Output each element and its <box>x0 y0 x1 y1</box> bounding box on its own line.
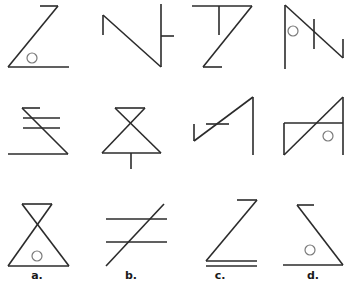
stroke-line <box>22 108 68 154</box>
puzzle-board <box>0 0 353 284</box>
stroke-line <box>8 6 58 67</box>
figure-box-slash <box>284 97 343 155</box>
stroke-line <box>297 205 343 265</box>
option-d-sigma-circle[interactable] <box>283 205 343 265</box>
figure-flag-n <box>285 5 343 69</box>
stroke-line <box>106 204 164 266</box>
option-a-hourglass-circle[interactable] <box>8 204 69 266</box>
circle-icon <box>323 131 333 141</box>
figure-sigma-bars <box>8 108 68 154</box>
option-label-a[interactable]: a. <box>31 270 43 281</box>
figure-slash-lightning <box>194 97 253 155</box>
stroke-line <box>103 15 161 67</box>
stroke-line <box>206 200 257 261</box>
circle-icon <box>32 251 42 261</box>
figure-hourglass-stem <box>102 108 161 169</box>
circle-icon <box>288 26 298 36</box>
circle-icon <box>305 245 315 255</box>
option-b-slash-bars[interactable] <box>106 204 167 266</box>
stroke-line <box>203 6 252 67</box>
stroke-line <box>284 97 343 155</box>
figure-z-circle <box>8 6 69 67</box>
stroke-line <box>194 97 253 141</box>
option-label-d[interactable]: d. <box>307 270 319 281</box>
circle-icon <box>27 53 37 63</box>
option-label-c[interactable]: c. <box>215 270 226 281</box>
figure-t-z <box>192 6 252 67</box>
option-label-b[interactable]: b. <box>125 270 137 281</box>
figure-n-tick <box>103 4 174 67</box>
option-c-z-double[interactable] <box>206 200 257 266</box>
